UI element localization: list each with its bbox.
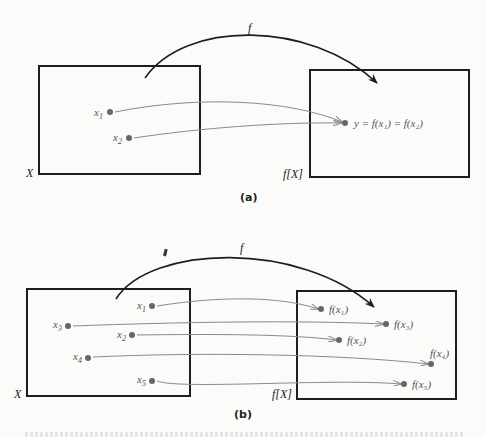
point-x4-label: x4 <box>72 350 82 365</box>
point-f-x1-label: f(x₁) <box>329 303 348 316</box>
function-label: f <box>248 21 253 35</box>
image-label: f[X] <box>272 387 292 401</box>
point-f-x3-label: f(x₃) <box>394 318 413 331</box>
part-a-label: (a) <box>240 191 257 204</box>
point-x2-label: x2 <box>116 328 126 343</box>
point-x2-label: x2 <box>112 131 122 146</box>
clipped-caption <box>25 432 465 437</box>
point-x3 <box>65 323 71 329</box>
point-f-x2-label: f(x₂) <box>347 334 366 347</box>
point-f-x5-label: f(x₅) <box>412 378 431 391</box>
point-x5 <box>149 378 155 384</box>
function-arrow <box>145 35 377 83</box>
point-f-x2 <box>336 337 342 343</box>
point-f-x1 <box>318 306 324 312</box>
part-b-label: (b) <box>234 408 252 421</box>
point-f-x3 <box>383 321 389 327</box>
mapping-arrow-x1 <box>115 102 342 122</box>
domain-label: X <box>13 387 22 401</box>
point-x1-label: x1 <box>93 106 103 121</box>
mapping-arrow-x3 <box>73 322 383 326</box>
mapping-arrow-x5 <box>157 381 401 384</box>
mapping-arrow-x1 <box>157 299 318 309</box>
mapping-arrow-x2 <box>137 335 336 340</box>
part-b: f x1 x3 x2 x4 x5 f(x₁) f(x₃) f(x₂) f(x₄)… <box>13 241 456 421</box>
point-x1-label: x1 <box>136 299 146 314</box>
point-f-x5 <box>401 381 407 387</box>
point-x1 <box>107 109 113 115</box>
image-label: f[X] <box>283 167 303 181</box>
domain-label: X <box>25 166 34 180</box>
point-x5-label: x5 <box>136 373 146 388</box>
part-a: f x1 x2 y = f(x₁) = f(x₂) X f[X] (a) <box>25 21 469 204</box>
point-x2 <box>129 332 135 338</box>
stray-mark <box>163 249 168 257</box>
point-f-x4-label: f(x₄) <box>430 347 449 360</box>
point-y-label: y = f(x₁) = f(x₂) <box>353 117 423 130</box>
point-f-x4 <box>428 361 434 367</box>
point-x4 <box>85 355 91 361</box>
function-arrow <box>116 258 374 307</box>
point-x2 <box>126 135 132 141</box>
mapping-arrow-x4 <box>93 354 428 364</box>
point-x1 <box>149 303 155 309</box>
domain-set-box <box>39 66 200 174</box>
function-label: f <box>240 241 245 255</box>
point-x3-label: x3 <box>52 318 62 333</box>
point-y <box>342 120 348 126</box>
function-mapping-diagram: f x1 x2 y = f(x₁) = f(x₂) X f[X] (a) f x… <box>0 0 486 437</box>
